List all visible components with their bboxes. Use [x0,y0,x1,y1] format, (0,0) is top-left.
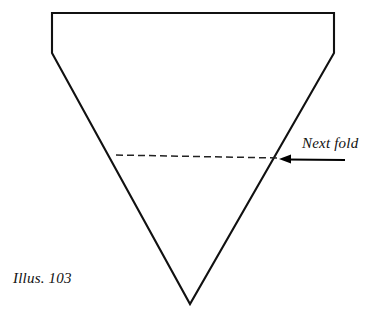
next-fold-label: Next fold [302,135,358,152]
illustration-figure: Next fold Illus. 103 [0,0,377,317]
illustration-caption: Illus. 103 [13,270,72,287]
arrow-shaft [287,160,345,161]
